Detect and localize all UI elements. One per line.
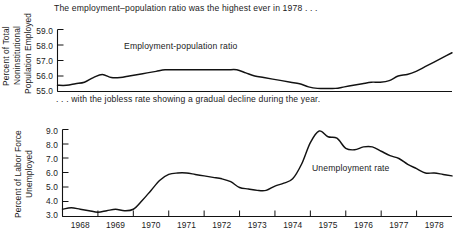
bottom-chart-y-tickmarks <box>63 130 69 217</box>
bottom-chart-x-tickmarks <box>63 211 417 217</box>
bottom-chart-xtick-label: 1973 <box>240 220 274 230</box>
bottom-chart-xtick-label: 1977 <box>382 220 416 230</box>
bottom-chart-xtick-label: 1971 <box>169 220 203 230</box>
unemployment-rate-line <box>63 131 453 212</box>
bottom-chart-xtick-label: 1969 <box>99 220 133 230</box>
bottom-chart-xtick-label: 1978 <box>417 220 451 230</box>
bottom-chart-xtick-label: 1970 <box>134 220 168 230</box>
bottom-chart-xtick-label: 1968 <box>63 220 97 230</box>
bottom-chart-xtick-label: 1974 <box>276 220 310 230</box>
bottom-chart-xtick-label: 1976 <box>346 220 380 230</box>
bottom-chart-plot <box>0 0 459 235</box>
bottom-chart-xtick-label: 1972 <box>205 220 239 230</box>
economic-indicators-figure: The employment–population ratio was the … <box>0 0 459 235</box>
bottom-chart-xtick-label: 1975 <box>311 220 345 230</box>
